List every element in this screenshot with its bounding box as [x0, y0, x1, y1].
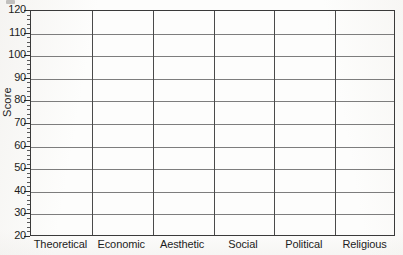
gridline-vertical — [335, 11, 336, 235]
gridline-horizontal — [31, 34, 394, 35]
y-tick-label: 90 — [0, 71, 26, 83]
x-tick-label: Religious — [334, 238, 395, 250]
gridline-vertical — [92, 11, 93, 235]
x-tick-label: Political — [273, 238, 334, 250]
x-tick-label: Aesthetic — [152, 238, 213, 250]
y-tick-label: 20 — [0, 229, 26, 241]
gridline-vertical — [274, 11, 275, 235]
y-tick-label: 100 — [0, 48, 26, 60]
x-tick-label: Theoretical — [30, 238, 91, 250]
gridline-horizontal — [31, 147, 394, 148]
x-tick-label: Social — [213, 238, 274, 250]
gridline-horizontal — [31, 192, 394, 193]
x-tick-label: Economic — [91, 238, 152, 250]
y-tick-label: 110 — [0, 26, 26, 38]
plot-area — [30, 10, 395, 236]
chart-container: Score 2030405060708090100110120 Theoreti… — [0, 0, 403, 255]
gridline-horizontal — [31, 124, 394, 125]
y-tick-label: 40 — [0, 184, 26, 196]
gridline-vertical — [153, 11, 154, 235]
gridline-horizontal — [31, 79, 394, 80]
gridline-horizontal — [31, 56, 394, 57]
gridline-vertical — [214, 11, 215, 235]
y-tick-label: 30 — [0, 206, 26, 218]
gridline-horizontal — [31, 169, 394, 170]
y-tick-label: 50 — [0, 161, 26, 173]
y-tick-label: 70 — [0, 116, 26, 128]
y-tick-label: 120 — [0, 3, 26, 15]
y-tick-label: 60 — [0, 139, 26, 151]
gridline-horizontal — [31, 101, 394, 102]
y-tick-label: 80 — [0, 93, 26, 105]
gridline-horizontal — [31, 214, 394, 215]
